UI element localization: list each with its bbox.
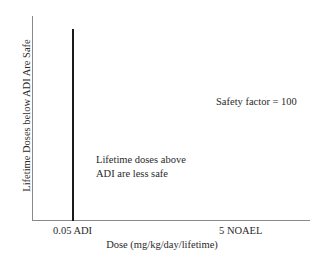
y-axis-label: Lifetime Doses below ADI Are Safe	[21, 6, 32, 226]
adi-threshold-line	[72, 29, 74, 221]
x-axis-label: Dose (mg/kg/day/lifetime)	[0, 239, 324, 250]
x-tick-noael: 5 NOAEL	[219, 225, 262, 236]
less-safe-annotation-line2: ADI are less safe	[96, 167, 168, 181]
safety-factor-annotation: Safety factor = 100	[216, 95, 297, 109]
y-axis	[32, 16, 33, 221]
less-safe-annotation-line1: Lifetime doses above	[96, 153, 186, 167]
x-tick-adi: 0.05 ADI	[53, 225, 92, 236]
